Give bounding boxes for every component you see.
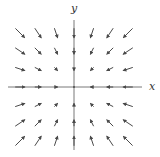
vector-arrow <box>123 48 133 54</box>
vector-arrow <box>35 136 41 146</box>
x-axis-label: x <box>149 81 155 92</box>
vector-arrow <box>107 120 113 126</box>
vector-arrow <box>15 67 25 70</box>
vector-arrow <box>123 28 132 37</box>
vector-arrow <box>15 120 25 126</box>
vector-arrow <box>15 28 24 37</box>
vector-arrow <box>90 48 93 54</box>
vector-arrow <box>107 67 113 70</box>
vector-arrow <box>90 28 93 38</box>
vector-arrow <box>54 103 57 106</box>
vector-field-plot <box>0 0 160 157</box>
vector-arrow <box>15 48 25 54</box>
vector-arrow <box>54 67 57 70</box>
vector-arrow <box>123 136 132 145</box>
vector-arrow <box>54 136 57 146</box>
vector-arrow <box>107 103 113 106</box>
vector-arrow <box>123 103 133 106</box>
vector-arrow <box>54 120 57 126</box>
vector-arrow <box>15 136 24 145</box>
vector-arrow <box>73 86 75 88</box>
vector-arrow <box>54 48 57 54</box>
vector-arrow <box>90 136 93 146</box>
vector-arrow <box>35 120 41 126</box>
vector-arrow <box>90 120 93 126</box>
vector-arrow <box>90 67 93 70</box>
vector-arrow <box>35 103 41 106</box>
vector-arrow <box>35 48 41 54</box>
vector-arrow <box>107 136 113 146</box>
vector-arrow <box>123 67 133 70</box>
vector-arrow <box>35 28 41 38</box>
vector-arrow <box>90 103 93 106</box>
vector-arrow <box>54 28 57 38</box>
vector-arrow <box>107 48 113 54</box>
vector-arrow <box>107 28 113 38</box>
vector-arrow <box>15 103 25 106</box>
vector-arrow <box>123 120 133 126</box>
y-axis-label: y <box>71 3 77 14</box>
vector-arrow <box>35 67 41 70</box>
